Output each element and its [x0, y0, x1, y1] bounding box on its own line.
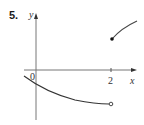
x-axis-label: x [129, 75, 135, 86]
y-axis-label: y [28, 9, 34, 20]
x-tick-label-2: 2 [108, 75, 113, 86]
x-axis-arrow-icon [131, 68, 137, 72]
curve-right-piece [112, 21, 137, 39]
curve-left-piece [24, 76, 109, 104]
filled-dot-marker [110, 37, 114, 41]
y-axis-arrow-icon [34, 13, 38, 19]
open-circle-marker [109, 102, 113, 106]
graph: y 0 2 x [0, 0, 144, 125]
